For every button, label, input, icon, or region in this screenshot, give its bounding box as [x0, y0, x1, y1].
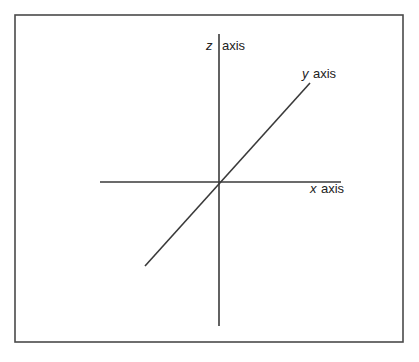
x-axis-word: axis: [321, 181, 345, 196]
diagram-frame: [15, 15, 403, 342]
y-axis-label: y axis: [301, 66, 337, 81]
y-axis-word: axis: [313, 66, 337, 81]
axes-diagram: z axis y axis x axis: [0, 0, 419, 362]
z-axis-variable: z: [205, 38, 213, 53]
z-axis-word: axis: [222, 38, 246, 53]
x-axis-label: x axis: [309, 181, 345, 196]
z-axis-label: z axis: [205, 38, 246, 53]
x-axis-variable: x: [309, 181, 317, 196]
